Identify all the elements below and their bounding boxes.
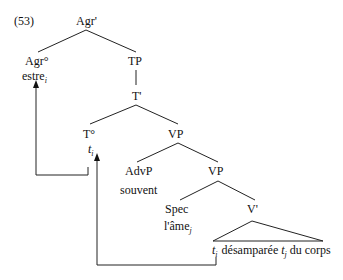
node-spec-word: l'âmej <box>164 219 192 235</box>
example-number: (53) <box>14 14 34 28</box>
node-vp2: VP <box>208 164 224 178</box>
node-spec: Spec <box>165 202 188 216</box>
node-agr-head: Agr° <box>25 54 49 68</box>
node-advp-word: souvent <box>120 183 158 197</box>
node-tp: TP <box>128 54 142 68</box>
node-agr-head-word: estrei <box>22 69 47 85</box>
node-v-terminal: tidésamparéetjdu corps <box>212 243 331 259</box>
node-advp: AdvP <box>125 164 153 178</box>
node-vp1: VP <box>168 127 184 141</box>
syntax-tree: (53) Agr' Agr° estrei TP T' T° ti VP Adv… <box>0 0 343 280</box>
arrow-head-icon <box>94 153 100 161</box>
node-agr-bar: Agr' <box>76 14 97 28</box>
node-t-head: T° <box>83 127 95 141</box>
node-t-bar: T' <box>132 89 142 103</box>
node-v-bar: V' <box>247 202 258 216</box>
node-t-head-trace: ti <box>88 142 94 158</box>
